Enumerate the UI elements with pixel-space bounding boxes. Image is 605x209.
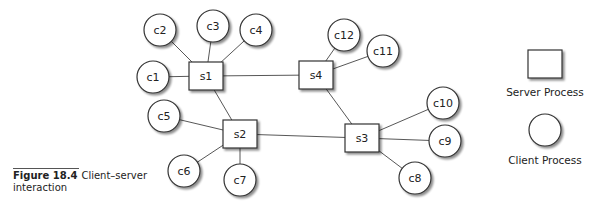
client-node-c9: c9 xyxy=(429,125,461,157)
client-label: c10 xyxy=(433,97,453,110)
client-label: c8 xyxy=(408,172,421,185)
server-label: s4 xyxy=(310,69,323,82)
client-node-c6: c6 xyxy=(168,155,200,187)
server-node-s3: s3 xyxy=(345,124,379,152)
client-node-c5: c5 xyxy=(148,100,180,132)
client-node-c12: c12 xyxy=(328,19,360,51)
client-label: c5 xyxy=(157,110,170,123)
client-node-c1: c1 xyxy=(137,61,169,93)
legend-client-icon xyxy=(529,114,561,146)
clients-layer: c1c2c3c4c5c6c7c8c9c10c11c12 xyxy=(137,10,461,196)
client-node-c2: c2 xyxy=(144,14,176,46)
client-label: c2 xyxy=(153,24,166,37)
server-label: s1 xyxy=(200,70,213,83)
client-node-c3: c3 xyxy=(197,10,229,42)
client-label: c4 xyxy=(249,24,262,37)
client-node-c4: c4 xyxy=(240,14,272,46)
client-node-c7: c7 xyxy=(224,164,256,196)
legend-server-label: Server Process xyxy=(506,86,584,98)
edges-layer xyxy=(153,26,445,180)
server-label: s3 xyxy=(356,132,369,145)
legend-server-icon xyxy=(528,50,562,78)
client-node-c11: c11 xyxy=(367,35,399,67)
client-label: c11 xyxy=(373,45,393,58)
edge-s2-s3 xyxy=(240,134,362,138)
server-node-s4: s4 xyxy=(299,61,333,89)
client-node-c10: c10 xyxy=(427,87,459,119)
server-node-s1: s1 xyxy=(189,62,223,90)
server-node-s2: s2 xyxy=(223,120,257,148)
client-label: c7 xyxy=(233,174,246,187)
client-label: c9 xyxy=(438,135,451,148)
client-label: c12 xyxy=(334,29,354,42)
caption-rule xyxy=(13,168,79,169)
client-node-c8: c8 xyxy=(399,162,431,194)
figure-caption: Figure 18.4Client–server interaction xyxy=(13,170,163,194)
client-label: c1 xyxy=(146,71,159,84)
legend-client-label: Client Process xyxy=(508,154,582,166)
client-label: c3 xyxy=(206,20,219,33)
legend: Server Process Client Process xyxy=(506,50,584,166)
servers-layer: s1s2s3s4 xyxy=(189,61,379,152)
server-label: s2 xyxy=(234,128,247,141)
client-label: c6 xyxy=(177,165,190,178)
figure-number: Figure 18.4 xyxy=(13,170,77,181)
